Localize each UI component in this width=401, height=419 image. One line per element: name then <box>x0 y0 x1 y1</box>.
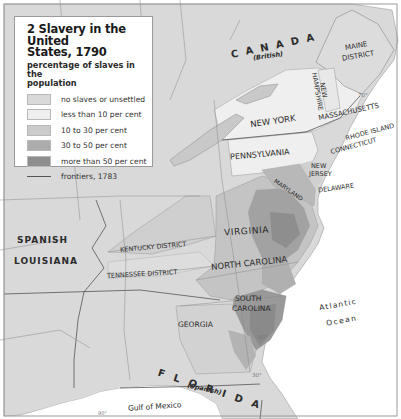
map-legend: 2 Slavery in the United States, 1790 per… <box>14 16 153 167</box>
swatch-no-slaves <box>27 94 51 105</box>
legend-label: 10 to 30 per cent <box>61 126 127 135</box>
label-lon-80: 80° <box>258 334 268 340</box>
legend-item: 10 to 30 per cent <box>27 123 144 139</box>
legend-label: frontiers, 1783 <box>61 172 117 181</box>
legend-subtitle: percentage of slaves in the population <box>27 61 144 88</box>
label-new-jersey-1: NEW <box>311 162 326 170</box>
legend-label: no slaves or unsettled <box>61 95 145 104</box>
legend-item: less than 10 per cent <box>27 107 144 123</box>
legend-label: 30 to 50 per cent <box>61 141 127 150</box>
label-south-carolina-1: SOUTH <box>235 294 261 303</box>
swatch-10-to-30 <box>27 125 51 136</box>
frontier-line-icon <box>27 176 51 177</box>
legend-subtitle-line1: percentage of slaves in the <box>27 61 144 79</box>
swatch-less-than-10 <box>27 109 51 120</box>
legend-subtitle-line2: population <box>27 79 144 88</box>
label-georgia: GEORGIA <box>178 320 213 329</box>
label-lon-90: 90° <box>98 410 107 416</box>
legend-title-line1: 2 Slavery in the United <box>27 24 144 47</box>
legend-items: no slaves or unsettled less than 10 per … <box>27 92 144 185</box>
label-lat-30: 30° <box>252 372 262 378</box>
legend-label: more than 50 per cent <box>61 157 147 166</box>
label-louisiana: LOUISIANA <box>14 256 78 266</box>
label-lon-70: 70° <box>358 92 368 98</box>
legend-title-line2: States, 1790 <box>27 47 144 59</box>
label-spanish: SPANISH <box>17 235 68 245</box>
legend-item: more than 50 per cent <box>27 154 144 170</box>
label-south-carolina-2: CAROLINA <box>232 304 271 313</box>
swatch-30-to-50 <box>27 140 51 151</box>
legend-item-frontier: frontiers, 1783 <box>27 169 144 185</box>
legend-label: less than 10 per cent <box>61 110 142 119</box>
label-new-jersey-2: JERSEY <box>309 170 332 178</box>
swatch-more-than-50 <box>27 156 51 167</box>
legend-item: no slaves or unsettled <box>27 92 144 108</box>
slavery-map-1790: 2 Slavery in the United States, 1790 per… <box>0 0 401 419</box>
legend-title: 2 Slavery in the United States, 1790 <box>27 24 144 59</box>
legend-item: 30 to 50 per cent <box>27 138 144 154</box>
